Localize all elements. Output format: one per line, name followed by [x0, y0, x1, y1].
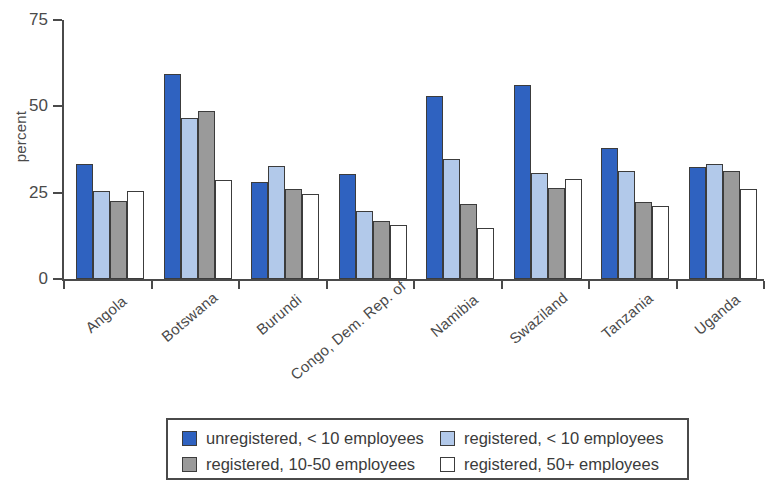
legend-item-label: registered, < 10 employees — [464, 429, 664, 448]
bar — [181, 118, 198, 279]
bar — [251, 182, 268, 279]
legend-swatch-icon — [182, 431, 197, 446]
bar-group — [238, 20, 326, 279]
bar — [76, 164, 93, 279]
y-axis-tick-label: 75 — [0, 11, 48, 28]
y-axis-tick — [53, 105, 62, 107]
bar-group — [501, 20, 589, 279]
bar — [740, 189, 757, 279]
x-axis-label: Congo, Dem. Rep. of — [287, 277, 409, 383]
bar — [164, 74, 181, 279]
bar — [198, 111, 215, 279]
bar — [635, 202, 652, 279]
bar — [302, 194, 319, 279]
bar — [689, 167, 706, 279]
bar — [426, 96, 443, 279]
x-axis-tick — [763, 281, 765, 289]
bar — [356, 211, 373, 279]
bar-chart-figure: percent 0255075 AngolaBotswanaBurundiCon… — [0, 0, 770, 481]
bar — [268, 166, 285, 279]
x-axis-tick — [501, 281, 503, 289]
bar — [390, 225, 407, 279]
bar — [339, 174, 356, 279]
x-axis-label: Angola — [82, 292, 130, 336]
bar — [548, 188, 565, 280]
plot-area — [63, 20, 763, 279]
legend-swatch-icon — [440, 457, 455, 472]
x-axis-label: Botswana — [158, 289, 221, 345]
x-axis-tick — [413, 281, 415, 289]
y-axis-tick-label: 25 — [0, 184, 48, 201]
chart-legend: unregistered, < 10 employeesregistered, … — [166, 418, 689, 480]
x-axis-label: Uganda — [691, 291, 743, 339]
bar — [514, 85, 531, 279]
bar — [215, 180, 232, 279]
x-axis-label: Swaziland — [506, 288, 571, 346]
y-axis-tick — [53, 278, 62, 280]
legend-swatch-icon — [182, 457, 197, 472]
legend-item: unregistered, < 10 employees — [182, 429, 424, 448]
bar — [477, 228, 494, 279]
x-axis-tick — [588, 281, 590, 289]
legend-item-label: registered, 10-50 employees — [206, 455, 415, 474]
bar-group — [63, 20, 151, 279]
bar-group — [151, 20, 239, 279]
legend-item-label: registered, 50+ employees — [464, 455, 659, 474]
x-axis-tick — [676, 281, 678, 289]
bar — [93, 191, 110, 279]
bar-group — [676, 20, 764, 279]
legend-item-label: unregistered, < 10 employees — [206, 429, 424, 448]
bar-group — [326, 20, 414, 279]
y-axis-tick-label: 50 — [0, 97, 48, 114]
bar-group — [588, 20, 676, 279]
x-axis-label: Namibia — [427, 291, 481, 340]
bar — [110, 201, 127, 279]
bar — [723, 171, 740, 279]
x-axis-tick — [151, 281, 153, 289]
bar — [443, 159, 460, 279]
bar — [652, 206, 669, 279]
bar — [531, 173, 548, 279]
bar — [285, 189, 302, 279]
y-axis-tick-label: 0 — [0, 270, 48, 287]
legend-item: registered, < 10 employees — [440, 429, 664, 448]
bar-group — [413, 20, 501, 279]
x-axis-label: Tanzania — [598, 290, 656, 343]
bar — [127, 191, 144, 279]
bar — [618, 171, 635, 279]
bar — [373, 221, 390, 279]
x-axis-label: Burundi — [253, 291, 305, 338]
bar — [601, 148, 618, 279]
x-axis-tick — [326, 281, 328, 289]
bar — [706, 164, 723, 279]
legend-item: registered, 50+ employees — [440, 455, 659, 474]
x-axis-tick — [238, 281, 240, 289]
legend-swatch-icon — [440, 431, 455, 446]
x-axis-tick — [63, 281, 65, 289]
y-axis-tick — [53, 19, 62, 21]
bar — [565, 179, 582, 279]
y-axis-tick — [53, 192, 62, 194]
legend-item: registered, 10-50 employees — [182, 455, 415, 474]
bar — [460, 204, 477, 279]
